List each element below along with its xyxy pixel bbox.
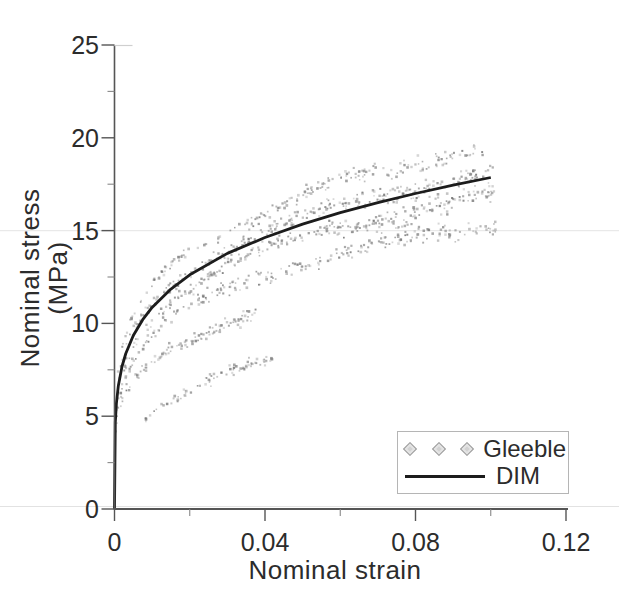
legend: Gleeble DIM bbox=[397, 431, 569, 494]
legend-label-gleeble: Gleeble bbox=[483, 435, 566, 463]
legend-entry-dim: DIM bbox=[405, 463, 566, 489]
y-axis-title: Nominal stress (MPa) bbox=[16, 155, 44, 401]
gleeble-marker-swatch bbox=[405, 444, 472, 454]
y-tick-label: 20 bbox=[71, 124, 99, 152]
diamond-marker-icon bbox=[403, 442, 417, 456]
y-tick-label: 15 bbox=[71, 217, 99, 245]
legend-entry-gleeble: Gleeble bbox=[405, 436, 566, 462]
x-axis-title: Nominal strain bbox=[190, 555, 480, 586]
y-tick-label: 0 bbox=[85, 495, 99, 523]
diamond-marker-icon bbox=[432, 442, 446, 456]
x-tick-label: 0.12 bbox=[542, 528, 591, 556]
y-tick-label: 25 bbox=[71, 31, 99, 59]
chart-figure: 051015202500.040.080.12 Nominal stress (… bbox=[0, 0, 619, 616]
x-tick-label: 0 bbox=[108, 528, 122, 556]
diamond-marker-icon bbox=[460, 442, 474, 456]
x-tick-label: 0.08 bbox=[391, 528, 440, 556]
legend-label-dim: DIM bbox=[496, 462, 540, 490]
x-tick-label: 0.04 bbox=[241, 528, 290, 556]
plot-svg: 051015202500.040.080.12 bbox=[0, 0, 619, 616]
y-tick-label: 10 bbox=[71, 309, 99, 337]
dim-line-swatch bbox=[405, 475, 485, 478]
y-tick-label: 5 bbox=[85, 402, 99, 430]
